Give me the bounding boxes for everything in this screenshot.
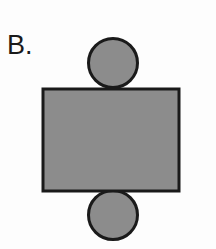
center-rectangle	[43, 89, 179, 191]
top-circle	[89, 39, 138, 88]
bottom-circle	[89, 191, 138, 240]
panel-label: B.	[7, 30, 33, 60]
figure-canvas: B.	[0, 0, 216, 249]
